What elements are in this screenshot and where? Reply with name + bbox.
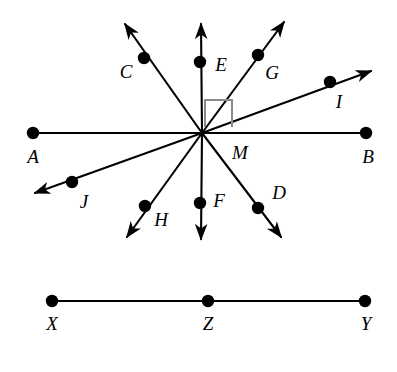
ray-MF xyxy=(201,133,202,239)
segments-group xyxy=(33,133,366,301)
point-label-f: F xyxy=(213,191,225,210)
ray-MJ xyxy=(35,133,202,193)
point-dot-g[interactable] xyxy=(252,49,264,61)
point-dot-y[interactable] xyxy=(359,295,371,307)
point-label-y: Y xyxy=(361,314,372,333)
point-dot-x[interactable] xyxy=(46,295,58,307)
point-dot-z[interactable] xyxy=(202,295,214,307)
point-dot-j[interactable] xyxy=(66,176,78,188)
point-dot-i[interactable] xyxy=(324,76,336,88)
ray-ME xyxy=(201,24,202,133)
point-label-d: D xyxy=(272,183,286,202)
point-dot-e[interactable] xyxy=(194,56,206,68)
point-label-j: J xyxy=(80,192,88,211)
point-label-x: X xyxy=(46,314,58,333)
point-label-z: Z xyxy=(203,314,214,333)
point-label-b: B xyxy=(362,147,374,166)
point-dot-a[interactable] xyxy=(27,127,39,139)
point-dot-f[interactable] xyxy=(194,197,206,209)
ray-MI xyxy=(202,71,371,133)
ray-MC xyxy=(125,24,202,133)
point-label-a: A xyxy=(27,147,39,166)
geometry-figure: ABCDEFGHIJMXZY xyxy=(0,0,397,372)
point-dot-h[interactable] xyxy=(139,200,151,212)
point-label-e: E xyxy=(215,55,227,74)
point-dot-b[interactable] xyxy=(360,127,372,139)
point-label-h: H xyxy=(154,210,168,229)
point-label-i: I xyxy=(336,92,342,111)
point-dot-d[interactable] xyxy=(252,202,264,214)
geometry-canvas xyxy=(0,0,397,372)
point-label-c: C xyxy=(120,62,133,81)
point-dot-c[interactable] xyxy=(138,52,150,64)
point-label-m: M xyxy=(232,143,248,162)
point-label-g: G xyxy=(265,63,279,82)
